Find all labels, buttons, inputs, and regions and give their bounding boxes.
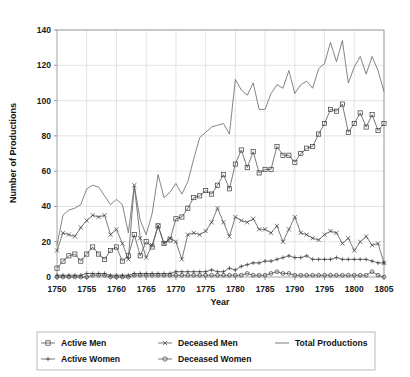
y-tick-label: 40 [42,201,52,211]
legend-label: Deceased Women [178,354,251,364]
legend-label: Active Women [61,354,120,364]
x-tick-label: 1755 [77,284,96,294]
legend-label: Total Productions [295,338,368,348]
y-tick-label: 80 [42,131,52,141]
x-tick-label: 1805 [375,284,394,294]
legend-label: Deceased Men [178,338,238,348]
x-tick-label: 1750 [48,284,67,294]
x-tick-label: 1785 [256,284,275,294]
y-tick-label: 120 [37,60,51,70]
x-tick-label: 1780 [226,284,245,294]
y-tick-label: 140 [37,25,51,35]
legend-label: Active Men [61,338,106,348]
y-tick-label: 20 [42,237,52,247]
x-tick-label: 1770 [166,284,185,294]
x-tick-label: 1760 [107,284,126,294]
x-tick-label: 1775 [196,284,215,294]
x-tick-label: 1765 [137,284,156,294]
y-axis-title: Number of Productions [8,103,18,203]
y-tick-label: 60 [42,166,52,176]
x-axis-title: Year [210,297,230,307]
y-tick-label: 100 [37,96,51,106]
y-tick-label: 0 [46,272,51,282]
x-tick-label: 1790 [285,284,304,294]
x-tick-label: 1795 [315,284,334,294]
x-tick-label: 1800 [345,284,364,294]
chart-figure: 020406080100120140 175017551760176517701… [0,0,410,377]
